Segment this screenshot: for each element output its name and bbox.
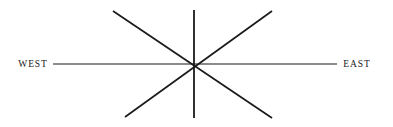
west-axis-label: WEST — [18, 60, 47, 70]
compass-rose-lines — [0, 0, 393, 127]
compass-diagram-figure: WEST EAST — [0, 0, 393, 127]
east-axis-label: EAST — [343, 60, 370, 70]
